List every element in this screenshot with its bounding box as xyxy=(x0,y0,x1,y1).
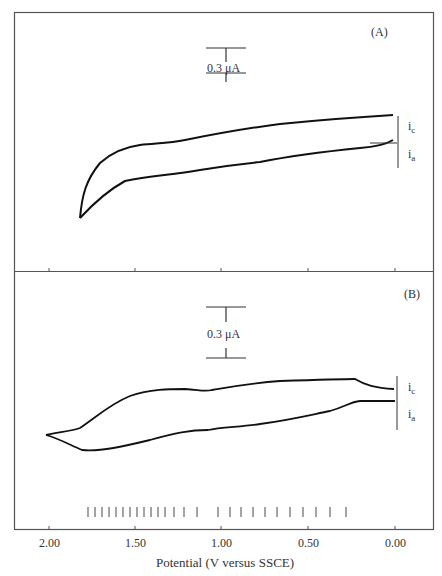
x-tick-label: 0.50 xyxy=(298,536,319,551)
panel-a-ia-label: ia xyxy=(408,147,415,163)
ia-subscript: a xyxy=(411,153,415,163)
x-tick-label: 1.00 xyxy=(211,536,232,551)
curve-a-anodic xyxy=(80,140,393,218)
x-axis-title: Potential (V versus SSCE) xyxy=(156,555,294,571)
panel-b-ic-label: ic xyxy=(408,380,415,396)
ic-subscript: c xyxy=(411,386,415,396)
x-tick-label: 0.00 xyxy=(385,536,406,551)
panel-a-scale-label: 0.3 μA xyxy=(207,61,240,76)
potential-markers xyxy=(88,507,346,517)
x-tick-label: 1.50 xyxy=(125,536,146,551)
curve-a-cathodic xyxy=(80,115,393,218)
x-tick-label: 2.00 xyxy=(39,536,60,551)
divider-ticks xyxy=(49,268,395,271)
panel-b-scale-label: 0.3 μA xyxy=(207,327,240,342)
ic-subscript: c xyxy=(411,125,415,135)
panel-a-label: (A) xyxy=(371,25,388,40)
ia-subscript: a xyxy=(411,413,415,423)
voltammogram-figure xyxy=(0,0,442,576)
panel-b-ia-label: ia xyxy=(408,407,415,423)
panel-b-label: (B) xyxy=(404,287,420,302)
curve-b-anodic xyxy=(46,401,395,450)
panel-a-ic-label: ic xyxy=(408,119,415,135)
